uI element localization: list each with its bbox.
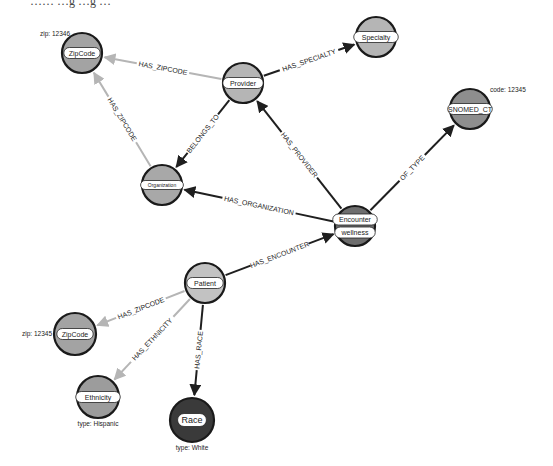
node-snomed[interactable]: SNOMED_CTcode: 12345 [448, 86, 526, 129]
edge-arrow-icon [184, 190, 222, 198]
node-property: zip: 12346 [40, 30, 70, 38]
edge-belongs-to[interactable]: BELONGS_TO [176, 100, 229, 167]
edges-layer: HAS_ZIPCODEHAS_SPECIALTYBELONGS_TOHAS_ZI… [94, 45, 454, 396]
edge-label: HAS_RACE [193, 331, 205, 370]
edge-arrow-icon [105, 57, 137, 63]
edge-arrow-icon [94, 73, 109, 97]
node-property: type: Hispanic [78, 420, 120, 428]
node-provider[interactable]: Provider [223, 63, 263, 103]
edge-has-encounter[interactable]: HAS_ENCOUNTER [226, 234, 334, 275]
edge-label: BELONGS_TO [185, 112, 221, 154]
node-property: zip: 12345 [22, 330, 52, 338]
node-zipcode-top[interactable]: ZipCodezip: 12346 [40, 30, 102, 73]
graph-canvas: HAS_ZIPCODEHAS_SPECIALTYBELONGS_TOHAS_ZI… [0, 0, 553, 466]
edge-has-zipcode[interactable]: HAS_ZIPCODE [94, 73, 151, 167]
node-encounter[interactable]: Encounterwellness [333, 206, 378, 246]
edge-line [218, 100, 229, 114]
node-label: Provider [230, 80, 257, 87]
edge-arrow-icon [114, 362, 131, 380]
edge-line [201, 305, 203, 330]
edge-label: HAS_ZIPCODE [106, 96, 139, 143]
edge-of-type[interactable]: OF_TYPE [370, 125, 453, 210]
edge-has-provider[interactable]: HAS_PROVIDER [257, 101, 341, 209]
edge-label: HAS_PROVIDER [279, 131, 319, 179]
edge-has-organization[interactable]: HAS_ORGANIZATION [184, 190, 333, 222]
edge-line [226, 266, 251, 276]
node-property: type: White [176, 444, 209, 452]
node-race[interactable]: Racetype: White [170, 398, 214, 452]
edge-label: HAS_SPECIALTY [281, 48, 337, 74]
edge-line [173, 299, 190, 317]
node-label: ZipCode [69, 50, 96, 58]
node-patient[interactable]: Patient [185, 263, 225, 303]
node-label: Organization [148, 182, 177, 188]
edge-line [166, 291, 185, 298]
edge-has-specialty[interactable]: HAS_SPECIALTY [264, 45, 354, 76]
edge-arrow-icon [194, 370, 196, 395]
node-label: Specialty [362, 34, 391, 42]
edge-label: HAS_ETHNICITY [131, 316, 175, 362]
node-label: Race [181, 415, 202, 425]
edge-line [296, 213, 334, 221]
node-specialty[interactable]: Specialty [354, 17, 399, 57]
edge-has-zipcode[interactable]: HAS_ZIPCODE [105, 57, 222, 79]
edge-arrow-icon [176, 153, 187, 167]
edge-line [136, 142, 151, 166]
edge-label: HAS_ORGANIZATION [223, 195, 294, 218]
edge-arrow-icon [97, 318, 116, 325]
node-zipcode-bottom[interactable]: ZipCodezip: 12345 [22, 313, 96, 355]
edge-arrow-icon [257, 101, 281, 132]
node-property: code: 12345 [490, 86, 526, 93]
node-label: SNOMED_CT [448, 106, 493, 114]
edge-label: OF_TYPE [398, 154, 426, 183]
node-ethnicity[interactable]: Ethnicitytype: Hispanic [76, 376, 121, 428]
edge-arrow-icon [338, 45, 354, 51]
edge-arrow-icon [308, 234, 333, 244]
edge-line [264, 70, 280, 76]
node-label: Patient [194, 280, 216, 287]
nodes-layer: ZipCodezip: 12346ProviderSpecialtyOrgani… [22, 17, 526, 452]
edge-line [370, 181, 399, 211]
edge-label: HAS_ZIPCODE [117, 296, 166, 322]
node-label: Encounter [339, 216, 372, 223]
node-label: Ethnicity [85, 394, 112, 402]
edge-label: HAS_ENCOUNTER [249, 240, 310, 270]
node-organization[interactable]: Organization [141, 165, 184, 205]
node-circle [335, 206, 375, 246]
edge-line [317, 178, 341, 209]
node-label: wellness [341, 229, 369, 236]
node-label: ZipCode [62, 331, 89, 339]
edge-has-race[interactable]: HAS_RACE [193, 305, 205, 395]
edge-label: HAS_ZIPCODE [138, 60, 188, 77]
edge-line [189, 73, 221, 79]
edge-arrow-icon [425, 125, 454, 155]
